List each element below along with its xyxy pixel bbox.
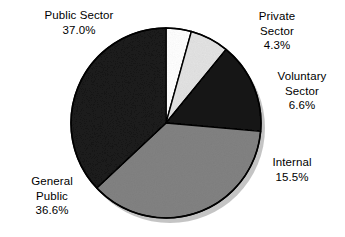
slice-label-internal-value: 15.5%	[259, 170, 325, 185]
slice-label-voluntary-sector-line1: Voluntary	[262, 69, 342, 84]
slice-label-general-public-line2: Public	[12, 189, 92, 204]
slice-label-voluntary-sector-line2: Sector	[262, 84, 342, 99]
slice-label-public-sector: Public Sector 37.0%	[18, 8, 140, 37]
pie-chart-figure: Public Sector 37.0% Private Sector 4.3% …	[0, 0, 345, 237]
slice-label-public-sector-name: Public Sector	[18, 8, 140, 23]
slice-label-public-sector-value: 37.0%	[18, 23, 140, 38]
slice-label-voluntary-sector: Voluntary Sector 6.6%	[262, 69, 342, 113]
slice-label-general-public-line1: General	[12, 174, 92, 189]
slice-label-general-public-value: 36.6%	[12, 203, 92, 218]
slice-label-private-sector: Private Sector 4.3%	[243, 9, 311, 53]
pie-slice-group	[71, 28, 261, 218]
slice-label-voluntary-sector-value: 6.6%	[262, 98, 342, 113]
slice-label-private-sector-line2: Sector	[243, 24, 311, 39]
slice-label-private-sector-line1: Private	[243, 9, 311, 24]
slice-label-internal: Internal 15.5%	[259, 155, 325, 184]
slice-label-general-public: General Public 36.6%	[12, 174, 92, 218]
slice-label-private-sector-value: 4.3%	[243, 38, 311, 53]
slice-label-internal-name: Internal	[259, 155, 325, 170]
